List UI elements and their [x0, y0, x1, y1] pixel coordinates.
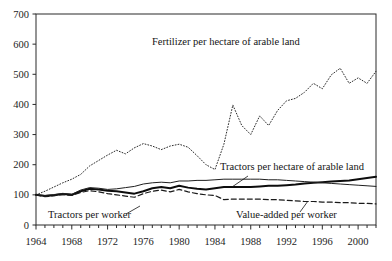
y-tick-label: 400 [13, 99, 29, 110]
y-tick-label: 200 [13, 159, 29, 170]
x-tick-label: 1988 [240, 236, 261, 247]
y-tick-label: 500 [13, 69, 29, 80]
y-tick-label: 300 [13, 129, 29, 140]
y-tick-label: 700 [13, 9, 29, 20]
line-chart: 0100200300400500600700 19641968197219761… [0, 0, 392, 261]
tractors-worker-label: Tractors per worker [48, 209, 132, 220]
x-tick-label: 1980 [169, 236, 190, 247]
value-added-label: Value-added per worker [236, 209, 337, 220]
y-tick-label: 0 [24, 220, 29, 231]
x-tick-label: 1972 [97, 236, 118, 247]
fertilizer-label: Fertilizer per hectare of arable land [152, 36, 301, 47]
tractors-hectare-label: Tractors per hectare of arable land [220, 161, 365, 172]
figure-container: Figure 2. Agricultural inputs and produc… [0, 0, 392, 261]
x-tick-label: 1976 [133, 236, 154, 247]
x-tick-label: 2000 [348, 236, 369, 247]
x-tick-label: 1964 [26, 236, 48, 247]
x-tick-label: 1992 [276, 236, 297, 247]
x-tick-label: 1984 [204, 236, 226, 247]
x-tick-label: 1996 [312, 236, 333, 247]
y-tick-label: 100 [13, 189, 29, 200]
y-tick-label: 600 [13, 39, 29, 50]
x-tick-label: 1968 [61, 236, 82, 247]
